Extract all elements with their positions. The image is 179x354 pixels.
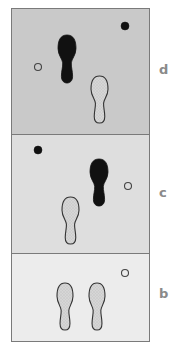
panel-d bbox=[12, 9, 150, 135]
panel-background bbox=[12, 135, 150, 254]
footprint-sequence-figure: d c b bbox=[0, 0, 179, 354]
panels-layer bbox=[12, 9, 150, 342]
panel-background bbox=[12, 254, 150, 342]
panel-label-b: b bbox=[159, 287, 168, 300]
filled-dot-marker bbox=[34, 146, 42, 154]
panel-label-c: c bbox=[159, 186, 167, 199]
filled-dot-marker bbox=[121, 22, 129, 30]
footprint-diagram bbox=[0, 0, 179, 354]
panel-label-d: d bbox=[159, 63, 168, 76]
panel-c bbox=[12, 135, 150, 254]
panel-b bbox=[12, 254, 150, 342]
